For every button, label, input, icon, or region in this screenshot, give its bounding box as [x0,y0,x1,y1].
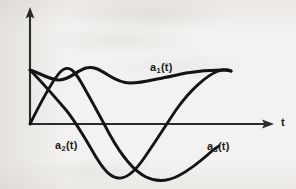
x-axis [30,119,274,128]
y-axis [26,7,35,124]
curve-label-a3: a3(t) [207,141,230,152]
waveform-plot [0,0,296,189]
curve-label-a2-sub: 2 [61,144,65,153]
curve-label-a1: a1(t) [150,62,173,73]
curve-label-a1-sub: 1 [156,66,160,75]
figure-canvas: a1(t) a2(t) a3(t) t [0,0,296,189]
x-axis-label: t [281,117,285,128]
curve-label-a2: a2(t) [55,140,78,151]
curve-label-a3-sub: 3 [213,145,217,154]
curve-label-a2-suffix: (t) [66,139,78,151]
curve-label-a1-suffix: (t) [161,61,173,73]
curve-label-a3-suffix: (t) [218,140,230,152]
